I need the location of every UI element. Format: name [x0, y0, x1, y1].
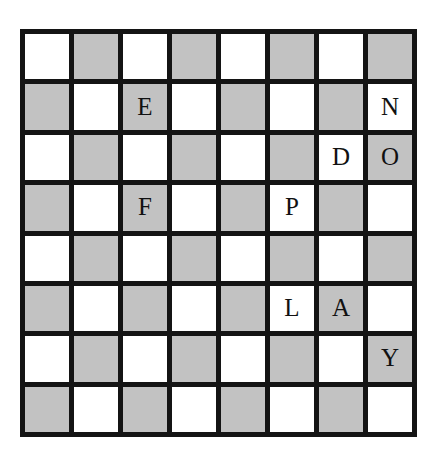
- cell-letter: Y: [381, 345, 399, 370]
- board-cell-r7-c5[interactable]: [221, 336, 265, 381]
- board-cell-r1-c3[interactable]: [123, 34, 167, 79]
- board-cell-r1-c4[interactable]: [172, 34, 216, 79]
- board-cell-r8-c2[interactable]: [74, 387, 118, 432]
- board-cell-r1-c2[interactable]: [74, 34, 118, 79]
- cell-letter: E: [137, 94, 152, 119]
- board-cell-r6-c1[interactable]: [25, 286, 69, 331]
- cell-letter: O: [381, 144, 399, 169]
- board-cell-r8-c3[interactable]: [123, 387, 167, 432]
- board-cell-r3-c2[interactable]: [74, 135, 118, 180]
- board-cell-r3-c1[interactable]: [25, 135, 69, 180]
- board-cell-r6-c7[interactable]: A: [319, 286, 363, 331]
- board-cell-r7-c1[interactable]: [25, 336, 69, 381]
- board-cell-r1-c5[interactable]: [221, 34, 265, 79]
- board-cell-r8-c4[interactable]: [172, 387, 216, 432]
- board-cell-r5-c3[interactable]: [123, 236, 167, 281]
- board-cell-r3-c8[interactable]: O: [368, 135, 412, 180]
- cell-letter: L: [284, 295, 299, 320]
- board-cell-r6-c4[interactable]: [172, 286, 216, 331]
- board-cell-r7-c7[interactable]: [319, 336, 363, 381]
- board-cell-r4-c7[interactable]: [319, 185, 363, 230]
- board-cell-r8-c5[interactable]: [221, 387, 265, 432]
- board-cell-r1-c7[interactable]: [319, 34, 363, 79]
- board-cell-r5-c4[interactable]: [172, 236, 216, 281]
- board-cell-r6-c8[interactable]: [368, 286, 412, 331]
- board-cell-r2-c7[interactable]: [319, 84, 363, 129]
- board-cell-r7-c2[interactable]: [74, 336, 118, 381]
- board-cell-r4-c2[interactable]: [74, 185, 118, 230]
- cell-letter: D: [332, 144, 350, 169]
- board-cell-r5-c5[interactable]: [221, 236, 265, 281]
- cell-letter: P: [285, 194, 299, 219]
- board-cell-r6-c5[interactable]: [221, 286, 265, 331]
- board-cell-r4-c4[interactable]: [172, 185, 216, 230]
- board-cell-r5-c8[interactable]: [368, 236, 412, 281]
- board-cell-r8-c8[interactable]: [368, 387, 412, 432]
- board-cell-r4-c6[interactable]: P: [270, 185, 314, 230]
- board-cell-r7-c3[interactable]: [123, 336, 167, 381]
- board-cell-r1-c8[interactable]: [368, 34, 412, 79]
- board-cell-r5-c1[interactable]: [25, 236, 69, 281]
- board-cell-r3-c4[interactable]: [172, 135, 216, 180]
- board-container: ENDOFPLAY: [0, 0, 439, 456]
- board-cell-r1-c6[interactable]: [270, 34, 314, 79]
- board-cell-r2-c4[interactable]: [172, 84, 216, 129]
- board-cell-r6-c6[interactable]: L: [270, 286, 314, 331]
- board-cell-r7-c4[interactable]: [172, 336, 216, 381]
- board-cell-r8-c6[interactable]: [270, 387, 314, 432]
- cell-letter: F: [138, 194, 152, 219]
- board-cell-r7-c6[interactable]: [270, 336, 314, 381]
- board-cell-r2-c1[interactable]: [25, 84, 69, 129]
- board-cell-r2-c3[interactable]: E: [123, 84, 167, 129]
- cell-letter: A: [332, 295, 350, 320]
- board-cell-r3-c7[interactable]: D: [319, 135, 363, 180]
- board-cell-r5-c6[interactable]: [270, 236, 314, 281]
- board-cell-r8-c1[interactable]: [25, 387, 69, 432]
- board-cell-r2-c5[interactable]: [221, 84, 265, 129]
- cell-letter: N: [381, 94, 399, 119]
- board-cell-r3-c6[interactable]: [270, 135, 314, 180]
- board-cell-r5-c2[interactable]: [74, 236, 118, 281]
- board-cell-r4-c3[interactable]: F: [123, 185, 167, 230]
- board-cell-r2-c2[interactable]: [74, 84, 118, 129]
- board-cell-r2-c8[interactable]: N: [368, 84, 412, 129]
- board-cell-r3-c5[interactable]: [221, 135, 265, 180]
- board-cell-r2-c6[interactable]: [270, 84, 314, 129]
- board-cell-r7-c8[interactable]: Y: [368, 336, 412, 381]
- board-cell-r8-c7[interactable]: [319, 387, 363, 432]
- board-cell-r1-c1[interactable]: [25, 34, 69, 79]
- board-cell-r6-c3[interactable]: [123, 286, 167, 331]
- board-cell-r5-c7[interactable]: [319, 236, 363, 281]
- board-cell-r4-c8[interactable]: [368, 185, 412, 230]
- board-cell-r6-c2[interactable]: [74, 286, 118, 331]
- board-cell-r4-c1[interactable]: [25, 185, 69, 230]
- checkerboard-grid: ENDOFPLAY: [20, 29, 417, 437]
- board-cell-r4-c5[interactable]: [221, 185, 265, 230]
- board-cell-r3-c3[interactable]: [123, 135, 167, 180]
